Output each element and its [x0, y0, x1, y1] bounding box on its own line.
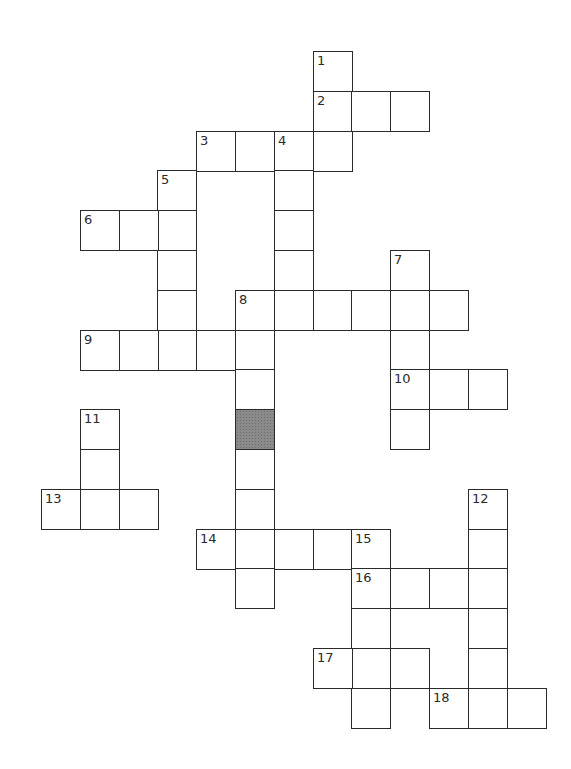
crossword-cell[interactable]	[351, 290, 391, 331]
crossword-cell[interactable]: 2	[313, 91, 353, 132]
clue-number: 4	[278, 133, 286, 148]
crossword-cell[interactable]: 11	[80, 409, 120, 450]
crossword-cell[interactable]	[390, 330, 430, 371]
crossword-cell[interactable]: 16	[351, 568, 391, 609]
crossword-cell[interactable]: 14	[196, 529, 236, 570]
crossword-cell[interactable]	[274, 250, 314, 291]
crossword-cell[interactable]	[468, 688, 508, 729]
clue-number: 1	[317, 53, 325, 68]
crossword-cell[interactable]	[235, 369, 275, 410]
clue-number: 8	[239, 292, 247, 307]
crossword-cell[interactable]	[390, 648, 430, 689]
crossword-cell[interactable]	[429, 369, 469, 410]
clue-number: 16	[355, 570, 372, 585]
crossword-cell[interactable]	[313, 131, 353, 172]
crossword-cell[interactable]: 3	[196, 131, 236, 172]
crossword-cell[interactable]	[274, 529, 314, 570]
crossword-cell[interactable]	[390, 290, 430, 331]
crossword-cell[interactable]	[429, 290, 469, 331]
crossword-cell[interactable]: 17	[313, 648, 353, 689]
crossword-cell[interactable]: 15	[351, 529, 391, 570]
crossword-cell[interactable]	[390, 568, 430, 609]
clue-number: 11	[84, 411, 101, 426]
clue-number: 10	[394, 371, 411, 386]
clue-number: 9	[84, 332, 92, 347]
crossword-cell[interactable]	[196, 330, 236, 371]
crossword-cell[interactable]: 12	[468, 489, 508, 530]
crossword-cell[interactable]	[157, 210, 197, 251]
crossword-cell[interactable]	[235, 489, 275, 530]
crossword-cell[interactable]: 4	[274, 131, 314, 172]
crossword-cell[interactable]: 10	[390, 369, 430, 410]
crossword-cell[interactable]	[468, 608, 508, 649]
crossword-cell[interactable]	[468, 568, 508, 609]
crossword-cell[interactable]	[390, 409, 430, 450]
crossword-cell[interactable]: 9	[80, 330, 120, 371]
crossword-cell[interactable]	[274, 170, 314, 211]
crossword-cell[interactable]	[351, 648, 391, 689]
crossword-cell[interactable]	[157, 250, 197, 291]
crossword-cell[interactable]	[468, 648, 508, 689]
crossword-cell[interactable]: 6	[80, 210, 120, 251]
crossword-cell[interactable]	[235, 131, 275, 172]
crossword-cell[interactable]	[157, 330, 197, 371]
clue-number: 3	[200, 133, 208, 148]
crossword-cell[interactable]	[468, 529, 508, 570]
crossword-cell[interactable]	[80, 449, 120, 490]
crossword-cell[interactable]	[274, 210, 314, 251]
clue-number: 18	[433, 690, 450, 705]
clue-number: 15	[355, 531, 372, 546]
crossword-cell[interactable]	[235, 330, 275, 371]
crossword-cell[interactable]	[157, 290, 197, 331]
crossword-cell[interactable]: 18	[429, 688, 469, 729]
clue-number: 7	[394, 252, 402, 267]
crossword-cell[interactable]	[119, 210, 159, 251]
shaded-cell	[235, 409, 275, 450]
crossword-cell[interactable]	[429, 568, 469, 609]
clue-number: 17	[317, 650, 334, 665]
crossword-cell[interactable]	[507, 688, 547, 729]
crossword-cell[interactable]	[313, 529, 353, 570]
crossword-cell[interactable]	[235, 568, 275, 609]
crossword-cell[interactable]	[119, 330, 159, 371]
crossword-cell[interactable]: 8	[235, 290, 275, 331]
crossword-cell[interactable]	[468, 369, 508, 410]
crossword-cell[interactable]	[80, 489, 120, 530]
crossword-cell[interactable]	[119, 489, 159, 530]
crossword-cell[interactable]: 1	[313, 51, 353, 92]
clue-number: 5	[161, 172, 169, 187]
clue-number: 6	[84, 212, 92, 227]
crossword-cell[interactable]	[235, 529, 275, 570]
crossword-cell[interactable]: 13	[41, 489, 81, 530]
crossword-cell[interactable]	[390, 91, 430, 132]
crossword-cell[interactable]	[351, 608, 391, 649]
clue-number: 13	[45, 491, 62, 506]
crossword-cell[interactable]	[274, 290, 314, 331]
crossword-cell[interactable]: 7	[390, 250, 430, 291]
crossword-cell[interactable]: 5	[157, 170, 197, 211]
crossword-grid: 123456710891112131415161718	[0, 0, 571, 769]
crossword-cell[interactable]	[313, 290, 353, 331]
crossword-cell[interactable]	[235, 449, 275, 490]
clue-number: 14	[200, 531, 217, 546]
crossword-cell[interactable]	[351, 688, 391, 729]
clue-number: 2	[317, 93, 325, 108]
clue-number: 12	[472, 491, 489, 506]
crossword-cell[interactable]	[351, 91, 391, 132]
